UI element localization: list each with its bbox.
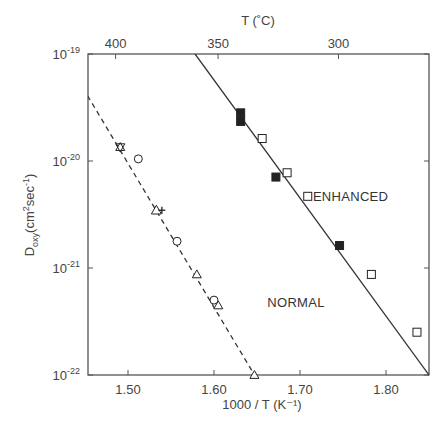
y-tick-label: 10-20 [53,152,80,169]
open-circle-marker [134,155,142,163]
plot-frame [88,54,429,375]
filled-square-marker [237,109,245,117]
enhanced-point [304,192,312,200]
y-tick-label: 10-22 [53,366,80,383]
normal-point [116,143,125,153]
top-axis-title: T (˚C) [241,13,275,28]
normal-point [134,155,142,163]
enhanced-point [367,270,375,278]
axis-labels: T (˚C) 1000 / T (K⁻¹) Doxy(cm2sec-1) NOR… [21,13,388,412]
enhanced-point [283,169,291,177]
y-tick-label: 10-19 [53,45,80,62]
top-tick-label: 300 [328,36,350,51]
x-tick-label: 1.70 [287,382,312,397]
enhanced-point [413,328,421,336]
enhanced-label: ENHANCED [313,189,388,204]
x-axis-title: 1000 / T (K⁻¹) [222,397,301,412]
x-tick-label: 1.80 [373,382,398,397]
enhanced-point [237,109,245,117]
axis-ticks: 1.501.601.701.8040035030010-1910-2010-21… [53,36,429,397]
enhanced-fit-line [195,54,429,375]
enhanced-point [258,135,266,143]
open-square-marker [258,135,266,143]
open-circle-marker [173,237,181,245]
data-points [116,109,421,379]
y-axis-title: Doxy(cm2sec-1) [21,174,40,257]
enhanced-point [237,117,245,125]
fit-lines [88,54,429,375]
open-square-marker [367,270,375,278]
filled-square-marker [237,117,245,125]
open-square-marker [304,192,312,200]
open-square-marker [413,328,421,336]
filled-square-marker [272,173,280,181]
x-tick-label: 1.60 [201,382,226,397]
normal-fit-line [88,96,255,375]
arrhenius-plot: 1.501.601.701.8040035030010-1910-2010-21… [0,0,446,425]
x-tick-label: 1.50 [115,382,140,397]
enhanced-point [336,242,344,250]
open-square-marker [283,169,291,177]
enhanced-point [272,173,280,181]
normal-label: NORMAL [267,295,324,310]
top-tick-label: 400 [105,36,127,51]
y-tick-label: 10-21 [53,259,80,276]
filled-square-marker [336,242,344,250]
top-tick-label: 350 [207,36,229,51]
normal-point [173,237,181,245]
plot-border [88,54,429,375]
